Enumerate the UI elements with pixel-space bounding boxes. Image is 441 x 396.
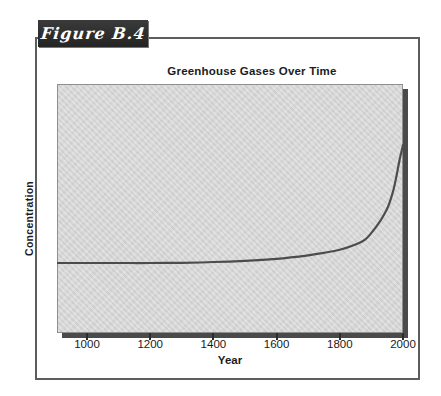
x-axis-label: Year (57, 354, 403, 366)
greenhouse-gas-curve (57, 84, 403, 333)
figure-label-text: Figure B.4 (40, 24, 147, 43)
y-axis-label: Concentration (20, 94, 38, 343)
figure-panel: Figure B.4 Greenhouse Gases Over Time Co… (0, 0, 441, 396)
x-tick-label: 2000 (383, 338, 423, 350)
figure-label-box: Figure B.4 (38, 20, 148, 47)
x-tick-label: 1800 (320, 338, 360, 350)
x-tick-label: 1000 (67, 338, 107, 350)
x-tick-label: 1600 (257, 338, 297, 350)
concentration-line (57, 145, 403, 263)
x-tick-label: 1200 (130, 338, 170, 350)
x-tick-label: 1400 (193, 338, 233, 350)
chart-title: Greenhouse Gases Over Time (62, 65, 441, 77)
plot-area (57, 84, 403, 333)
